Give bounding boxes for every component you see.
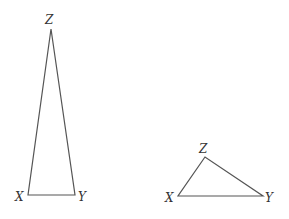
triangle-tall-outline — [28, 29, 75, 195]
triangle-diagram: Z X Y Z X Y — [0, 0, 289, 219]
vertex-label-z: Z — [198, 142, 208, 156]
vertex-label-x: X — [14, 190, 24, 204]
triangle-wide-outline — [178, 157, 263, 196]
vertex-label-y: Y — [78, 190, 87, 204]
vertex-label-y: Y — [265, 191, 274, 205]
vertex-label-x: X — [164, 191, 174, 205]
vertex-label-z: Z — [44, 13, 54, 27]
triangle-tall: Z X Y — [14, 13, 87, 204]
triangle-wide: Z X Y — [164, 142, 274, 205]
